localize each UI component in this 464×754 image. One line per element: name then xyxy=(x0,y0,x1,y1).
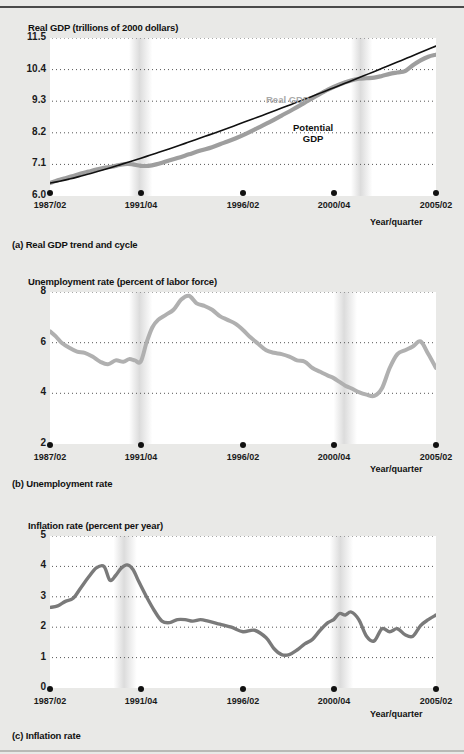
series-line xyxy=(50,565,436,655)
recession-band xyxy=(351,38,373,196)
recession-band xyxy=(334,292,357,444)
bottom-divider-rule xyxy=(0,750,464,752)
panel_c-xtick: 2005/02 xyxy=(404,696,464,706)
panel-c-caption: (c) Inflation rate xyxy=(12,730,81,741)
panel_b-xtick: 2005/02 xyxy=(404,452,464,462)
panel_c-ytick: 3 xyxy=(4,590,46,601)
series-line xyxy=(50,296,436,397)
panel-b-svg xyxy=(50,292,436,444)
figure-page: Real GDP (trillions of 2000 dollars) Yea… xyxy=(0,0,464,754)
panel_c-ytick: 4 xyxy=(4,559,46,570)
panel-a-label-real-gdp: Real GDP xyxy=(266,94,309,105)
x-axis-marker-dot xyxy=(240,442,246,448)
panel_c-xtick: 1987/02 xyxy=(18,696,82,706)
panel_c-xtick: 1996/02 xyxy=(211,696,275,706)
panel_b-xtick: 1996/02 xyxy=(211,452,275,462)
panel-a-label-potential-line1: Potential xyxy=(293,122,333,133)
panel_b-xtick: 2000/04 xyxy=(302,452,366,462)
recession-band xyxy=(114,536,137,688)
panel_b-xtick: 1987/02 xyxy=(18,452,82,462)
panel-b-caption: (b) Unemployment rate xyxy=(12,478,112,489)
x-axis-marker-dot xyxy=(47,190,53,196)
panel_c-ytick: 2 xyxy=(4,620,46,631)
panel-a-label-potential-gdp: Potential GDP xyxy=(293,122,333,144)
series-line xyxy=(50,55,436,183)
panel_a-xtick: 2005/02 xyxy=(404,200,464,210)
panel_a-ytick: 10.4 xyxy=(4,63,46,74)
panel_a-ytick: 11.5 xyxy=(4,31,46,42)
panel_b-ytick: 2 xyxy=(4,437,46,448)
x-axis-marker-dot xyxy=(47,686,53,692)
panel_c-ytick: 5 xyxy=(4,529,46,540)
x-axis-marker-dot xyxy=(47,442,53,448)
panel-c-svg xyxy=(50,536,436,688)
panel_a-ytick: 7.1 xyxy=(4,157,46,168)
series-line xyxy=(50,46,436,183)
panel-c-xaxis-title: Year/quarter xyxy=(370,709,423,719)
panel_b-ytick: 8 xyxy=(4,285,46,296)
panel_a-xtick: 1991/04 xyxy=(109,200,173,210)
panel_c-ytick: 1 xyxy=(4,651,46,662)
panel-c-plot-area xyxy=(50,536,436,688)
panel-inflation: Inflation rate (percent per year) Year/q… xyxy=(0,502,464,752)
panel_a-ytick: 8.2 xyxy=(4,126,46,137)
panel_c-xtick: 1991/04 xyxy=(109,696,173,706)
panel_a-ytick: 6.0 xyxy=(4,189,46,200)
x-axis-marker-dot xyxy=(240,686,246,692)
panel-b-axis-title: Unemployment rate (percent of labor forc… xyxy=(28,276,217,287)
panel-b-xaxis-title: Year/quarter xyxy=(370,464,423,474)
panel-a-svg xyxy=(50,38,436,196)
panel-a-plot-area xyxy=(50,38,436,196)
panel-b-plot-area xyxy=(50,292,436,444)
panel-a-axis-title: Real GDP (trillions of 2000 dollars) xyxy=(28,22,178,33)
panel_b-xtick: 1991/04 xyxy=(109,452,173,462)
panel_b-ytick: 6 xyxy=(4,336,46,347)
panel_c-xtick: 2000/04 xyxy=(302,696,366,706)
panel-a-xaxis-title: Year/quarter xyxy=(370,217,423,227)
panel_a-xtick: 1987/02 xyxy=(18,200,82,210)
panel_a-ytick: 9.3 xyxy=(4,94,46,105)
panel_a-xtick: 1996/02 xyxy=(211,200,275,210)
x-axis-marker-dot xyxy=(433,190,439,196)
panel-c-axis-title: Inflation rate (percent per year) xyxy=(28,520,163,531)
x-axis-marker-dot xyxy=(433,442,439,448)
panel-real-gdp: Real GDP (trillions of 2000 dollars) Yea… xyxy=(0,0,464,258)
panel-a-caption: (a) Real GDP trend and cycle xyxy=(12,239,138,250)
recession-band xyxy=(129,292,152,444)
recession-band xyxy=(129,38,152,196)
panel-a-label-potential-line2: GDP xyxy=(303,133,324,144)
x-axis-marker-dot xyxy=(240,190,246,196)
panel_a-xtick: 2000/04 xyxy=(302,200,366,210)
x-axis-marker-dot xyxy=(433,686,439,692)
panel_b-ytick: 4 xyxy=(4,386,46,397)
panel_c-ytick: 0 xyxy=(4,681,46,692)
